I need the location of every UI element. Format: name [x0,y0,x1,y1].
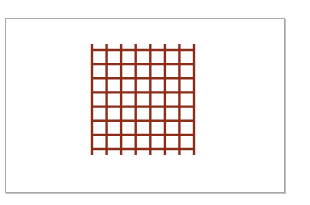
figure-panel [5,18,285,193]
grid-lattice-plot [6,19,286,194]
vertical-lines-group [92,44,194,155]
figure-root [0,0,310,205]
grid-lattice-svg [6,19,286,194]
